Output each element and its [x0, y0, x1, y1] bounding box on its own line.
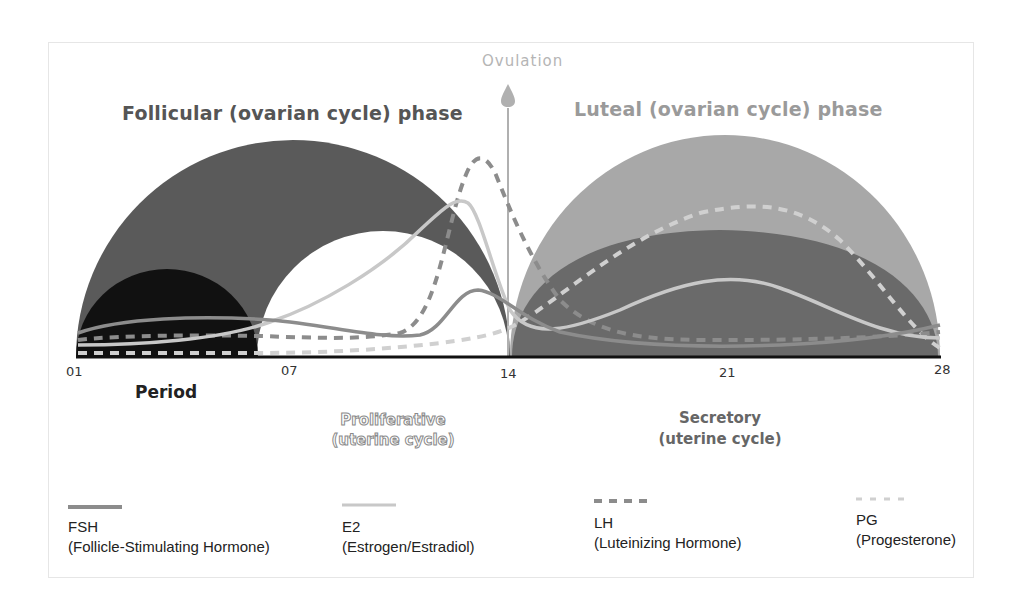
tick-day-28: 28: [934, 362, 951, 377]
secretory-label-line2: (uterine cycle): [640, 429, 800, 450]
period-label: Period: [135, 382, 197, 402]
ovulation-droplet-icon: [501, 84, 515, 107]
legend-abbr: PG: [856, 511, 956, 528]
legend-item-e2: E2 (Estrogen/Estradiol): [342, 510, 475, 555]
legend-abbr: FSH: [68, 518, 270, 535]
luteal-phase-title: Luteal (ovarian cycle) phase: [574, 98, 883, 120]
tick-day-21: 21: [719, 365, 736, 380]
tick-day-01: 01: [66, 364, 83, 379]
follicular-phase-title: Follicular (ovarian cycle) phase: [122, 102, 463, 124]
proliferative-label: Proliferative (uterine cycle): [318, 410, 468, 450]
legend-full-name: (Progesterone): [856, 531, 956, 548]
legend-abbr: E2: [342, 518, 475, 535]
secretory-label-line1: Secretory: [640, 408, 800, 429]
legend-item-lh: LH (Luteinizing Hormone): [594, 506, 742, 551]
legend-item-fsh: FSH (Follicle-Stimulating Hormone): [68, 510, 270, 555]
legend-full-name: (Luteinizing Hormone): [594, 534, 742, 551]
tick-day-14: 14: [500, 366, 517, 381]
secretory-label: Secretory (uterine cycle): [640, 408, 800, 450]
legend-full-name: (Estrogen/Estradiol): [342, 538, 475, 555]
legend-item-pg: PG (Progesterone): [856, 503, 956, 548]
proliferative-label-line1: Proliferative: [318, 410, 468, 430]
tick-day-07: 07: [281, 363, 298, 378]
legend-full-name: (Follicle-Stimulating Hormone): [68, 538, 270, 555]
ovulation-label: Ovulation: [482, 52, 563, 70]
proliferative-label-line2: (uterine cycle): [318, 430, 468, 450]
legend-abbr: LH: [594, 514, 742, 531]
